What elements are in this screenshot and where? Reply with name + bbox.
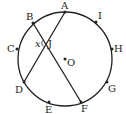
label-J: J — [47, 38, 52, 49]
label-D: D — [15, 84, 23, 95]
label-A: A — [60, 0, 69, 11]
label-I: I — [98, 10, 102, 21]
label-F: F — [81, 103, 88, 114]
points — [16, 11, 114, 104]
label-E: E — [45, 104, 52, 114]
point-C — [16, 48, 19, 51]
label-H: H — [114, 43, 123, 54]
label-O: O — [67, 57, 75, 68]
label-G: G — [108, 83, 116, 94]
circle-diagram: A I H G F E D C B O J x — [0, 0, 126, 114]
angle-label-x: x — [35, 38, 41, 49]
label-C: C — [7, 43, 15, 54]
chord-AD — [24, 12, 65, 82]
label-B: B — [26, 11, 33, 22]
